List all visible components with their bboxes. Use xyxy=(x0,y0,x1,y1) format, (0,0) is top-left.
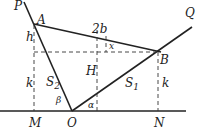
label-k-left: k xyxy=(26,76,33,90)
label-x: x xyxy=(109,41,114,51)
label-H: H xyxy=(85,64,97,78)
label-A: A xyxy=(36,13,46,27)
label-k-right: k xyxy=(162,76,169,90)
label-2b: 2b xyxy=(91,22,107,36)
label-B: B xyxy=(159,53,169,67)
label-alpha: α xyxy=(88,100,94,110)
label-S1: S1 xyxy=(125,76,139,92)
label-N: N xyxy=(153,116,165,130)
label-Q: Q xyxy=(185,6,195,20)
label-M: M xyxy=(28,116,42,130)
line-PO xyxy=(24,2,72,111)
label-beta: β xyxy=(55,95,61,105)
label-h: h xyxy=(26,30,34,44)
label-O: O xyxy=(67,116,77,130)
geometry-diagram: P A B Q M O N 2b x h k k H S2 S1 β α xyxy=(0,0,197,134)
label-P: P xyxy=(13,0,23,13)
label-S2: S2 xyxy=(46,75,60,91)
